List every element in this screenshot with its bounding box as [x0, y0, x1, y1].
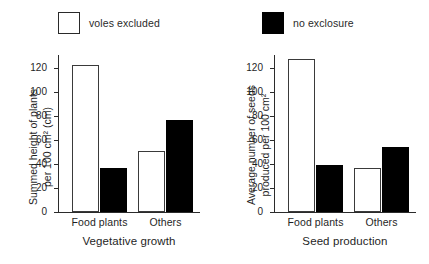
- y-axis-tick-label: 100: [246, 85, 263, 98]
- y-axis-tick: 20: [54, 188, 58, 189]
- y-axis-tick-label: 80: [252, 109, 263, 122]
- plot-area-vegetative: 020406080100120: [58, 55, 200, 213]
- y-axis-tick: 0: [54, 212, 58, 213]
- y-axis-tick-label: 0: [41, 205, 47, 218]
- y-axis-tick-label: 20: [252, 181, 263, 194]
- bar-seed-food-plants-voles-excluded: [288, 59, 315, 212]
- legend-entry-voles-excluded: voles excluded: [58, 12, 160, 34]
- y-axis-tick: 120: [270, 68, 274, 69]
- y-axis-tick: 80: [270, 116, 274, 117]
- legend-entry-no-exclosure: no exclosure: [262, 12, 354, 34]
- chart-panel-vegetative-growth: Summed height of plants per 100 cm² (cm)…: [6, 55, 206, 260]
- y-axis-tick-label: 40: [252, 157, 263, 170]
- y-axis-tick: 60: [270, 140, 274, 141]
- plot-area-seed: 020406080100120: [274, 55, 416, 213]
- x-axis-category-label: Others: [116, 216, 216, 228]
- x-axis-category-label: Others: [332, 216, 429, 228]
- legend-label-voles-excluded: voles excluded: [89, 17, 160, 29]
- y-axis-tick-label: 60: [36, 133, 47, 146]
- x-axis-title-vegetative: Vegetative growth: [58, 235, 200, 247]
- bar-vegetative-others-voles-excluded: [138, 151, 165, 212]
- chart-panel-seed-production: Average number of seeds produced per 100…: [222, 55, 422, 260]
- y-axis-tick: 20: [270, 188, 274, 189]
- y-axis-tick: 40: [270, 164, 274, 165]
- y-axis-line: [274, 55, 275, 213]
- bar-seed-others-voles-excluded: [354, 168, 381, 212]
- y-axis-tick-label: 120: [30, 61, 47, 74]
- bar-vegetative-food-plants-no-exclosure: [100, 168, 127, 212]
- filled-square-icon: [262, 12, 284, 34]
- y-axis-tick: 0: [270, 212, 274, 213]
- bar-vegetative-others-no-exclosure: [166, 120, 193, 212]
- y-axis-tick: 80: [54, 116, 58, 117]
- y-axis-tick-label: 80: [36, 109, 47, 122]
- y-axis-tick: 60: [54, 140, 58, 141]
- y-axis-line: [58, 55, 59, 213]
- y-axis-tick-label: 100: [30, 85, 47, 98]
- figure-legend: voles excluded no exclosure: [0, 8, 429, 42]
- bar-vegetative-food-plants-voles-excluded: [72, 65, 99, 212]
- y-axis-tick: 100: [54, 92, 58, 93]
- bar-seed-others-no-exclosure: [382, 147, 409, 212]
- legend-label-no-exclosure: no exclosure: [293, 17, 354, 29]
- y-axis-tick: 100: [270, 92, 274, 93]
- y-axis-tick-label: 60: [252, 133, 263, 146]
- y-axis-tick-label: 120: [246, 61, 263, 74]
- y-axis-tick-label: 20: [36, 181, 47, 194]
- y-axis-tick: 40: [54, 164, 58, 165]
- y-axis-tick: 120: [54, 68, 58, 69]
- x-axis-line: [274, 212, 416, 213]
- open-square-icon: [58, 12, 80, 34]
- bar-seed-food-plants-no-exclosure: [316, 165, 343, 212]
- y-axis-tick-label: 40: [36, 157, 47, 170]
- x-axis-title-seed: Seed production: [274, 235, 416, 247]
- y-axis-tick-label: 0: [257, 205, 263, 218]
- x-axis-line: [58, 212, 200, 213]
